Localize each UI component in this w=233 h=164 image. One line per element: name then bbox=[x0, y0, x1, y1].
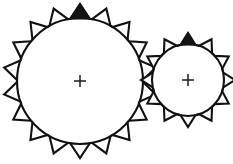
large-gear bbox=[4, 4, 156, 158]
small-gear bbox=[141, 33, 233, 127]
gear-diagram-canvas bbox=[0, 0, 233, 164]
large-gear-timing-tooth bbox=[70, 4, 90, 19]
small-gear-timing-tooth bbox=[181, 33, 196, 45]
gear-layer bbox=[4, 4, 233, 158]
gear-diagram-svg bbox=[0, 0, 233, 164]
